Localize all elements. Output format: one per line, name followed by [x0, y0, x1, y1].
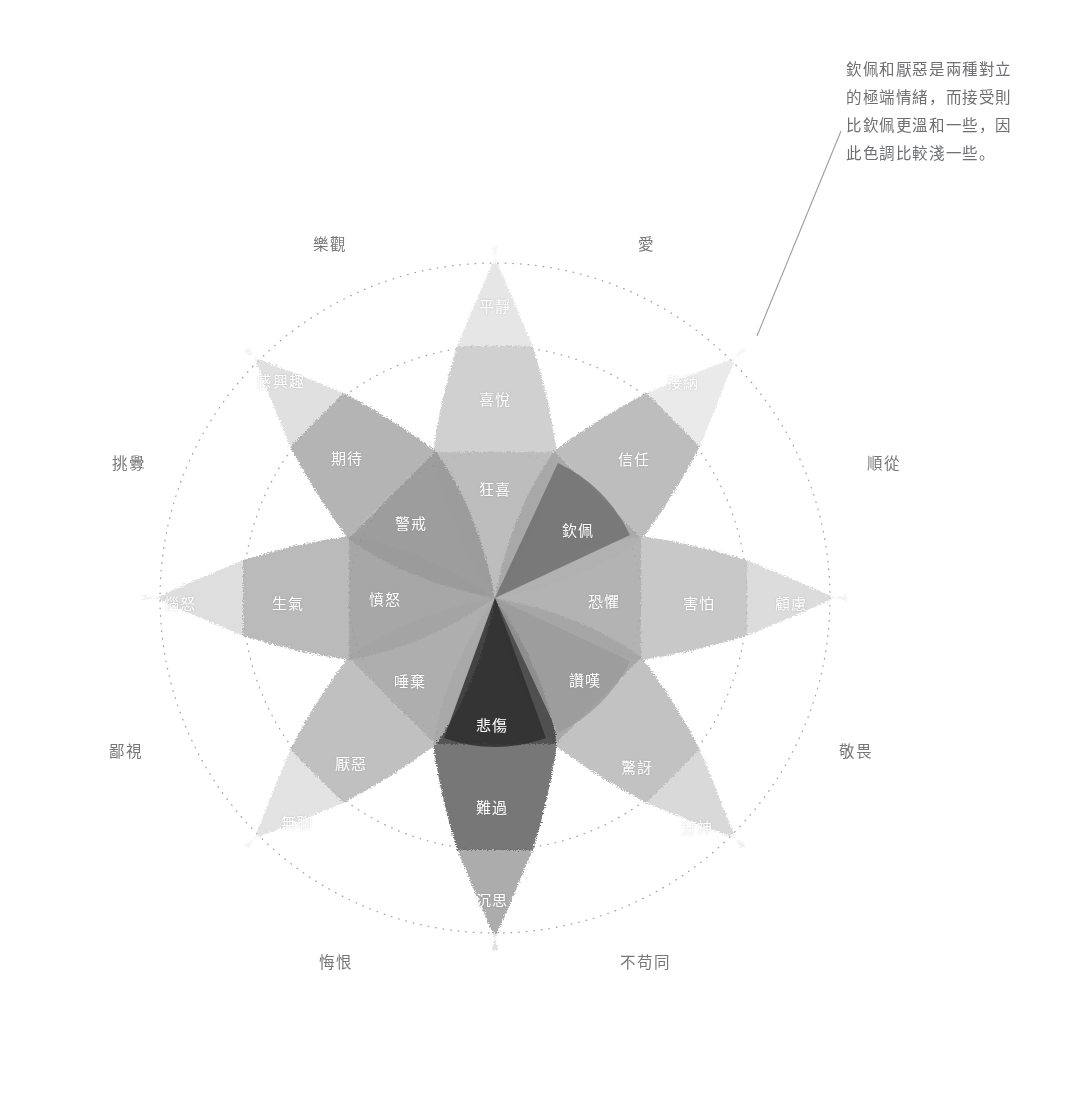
dyad-label-5: 悔恨: [319, 950, 353, 972]
dyad-label-4: 不苟同: [620, 950, 671, 972]
dyad-label-1: 愛: [638, 232, 655, 254]
emotion-wheel-figure: 欽佩和厭惡是兩種對立 的極端情緒，而接受則 比欽佩更溫和一些，因 此色調比較淺一…: [0, 0, 1088, 1096]
dyad-label-0: 樂觀: [313, 232, 347, 254]
dyad-label-2: 順從: [867, 451, 901, 473]
annotation-leader-line: [757, 131, 841, 336]
dyad-label-7: 挑釁: [112, 451, 146, 473]
annotation-note: 欽佩和厭惡是兩種對立 的極端情緒，而接受則 比欽佩更溫和一些，因 此色調比較淺一…: [846, 56, 1078, 168]
dyad-label-3: 敬畏: [839, 739, 873, 761]
dyad-label-6: 鄙視: [109, 739, 143, 761]
